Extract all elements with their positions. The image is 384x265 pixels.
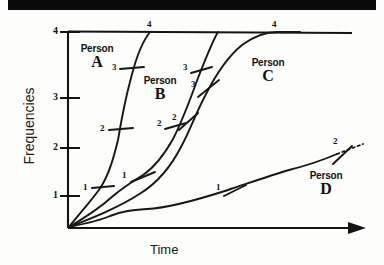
- y-axis-tick-label-3: 3: [53, 92, 58, 102]
- series-label-person-c-letter: C: [239, 68, 297, 83]
- y-axis-tick-label-4: 4: [53, 26, 58, 36]
- curve-person-b-mark-1: [131, 172, 155, 182]
- curve-person-d-dashed-extension: [337, 144, 363, 154]
- y-axis-tick-label-1: 1: [53, 190, 58, 200]
- x-axis-title: Time: [150, 242, 178, 257]
- mark-label-person-d-2: 2: [333, 137, 338, 146]
- mark-label-person-a-1: 1: [83, 183, 88, 192]
- series-label-person-d-letter: D: [297, 181, 355, 196]
- curve-person-a-mark-2: [109, 128, 133, 130]
- curve-person-a-mark-1: [92, 186, 114, 188]
- mark-label-person-b-2: 2: [157, 119, 162, 128]
- mark-label-person-b-1: 1: [122, 171, 127, 180]
- series-label-person-a-letter: A: [68, 54, 126, 69]
- y-axis-tick-label-2: 2: [53, 142, 58, 152]
- line-chart-plot: [0, 0, 384, 265]
- mark-label-person-a-2: 2: [100, 124, 105, 133]
- series-label-person-c: Person C: [239, 58, 297, 83]
- mark-label-person-b-3: 3: [183, 63, 188, 72]
- mark-label-person-c-2: 2: [172, 113, 177, 122]
- curve-person-c-mark-3: [198, 80, 219, 97]
- figure-canvas: 4 3 2 1 Frequencies Time Person A 1 2 3 …: [0, 0, 384, 265]
- series-label-person-d: Person D: [297, 171, 355, 196]
- y-axis-title: Frequencies: [21, 71, 37, 181]
- mark-label-person-a-4: 4: [147, 20, 152, 29]
- mark-label-person-a-3: 3: [112, 63, 117, 72]
- top-boundary-line: [68, 32, 352, 34]
- mark-label-person-d-1: 1: [216, 183, 221, 192]
- series-label-person-a: Person A: [68, 44, 126, 69]
- mark-label-person-c-3: 3: [191, 80, 196, 89]
- series-label-person-b-letter: B: [131, 86, 189, 101]
- mark-label-person-c-4: 4: [272, 20, 277, 29]
- series-label-person-b: Person B: [131, 76, 189, 101]
- x-axis-arrowhead: [348, 222, 366, 234]
